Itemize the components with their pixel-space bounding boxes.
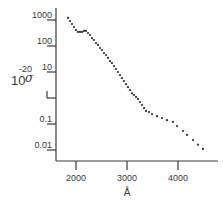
y-tick-label: 100 — [37, 36, 52, 46]
data-point — [117, 71, 119, 73]
data-point — [71, 23, 73, 25]
data-point — [107, 57, 109, 59]
data-point — [135, 96, 137, 98]
y-tick-label: 1000 — [32, 10, 52, 20]
x-tick-label: 2000 — [66, 173, 86, 183]
data-point — [123, 80, 125, 82]
data-point — [202, 148, 204, 150]
data-point — [143, 107, 145, 109]
data-point — [176, 125, 178, 127]
data-point — [151, 113, 153, 115]
chart: 10 -20 σ Å 1000100100.10.01 200030004000 — [0, 0, 223, 211]
data-point — [67, 17, 69, 19]
data-point — [111, 62, 113, 64]
data-point — [83, 30, 85, 32]
data-point — [101, 49, 103, 51]
data-point — [105, 54, 107, 56]
data-point — [109, 60, 111, 62]
x-axis-ticks: 200030004000 — [66, 161, 188, 183]
data-point — [73, 26, 75, 28]
data-point — [133, 94, 135, 96]
data-point — [91, 37, 93, 39]
data-point — [156, 115, 158, 117]
x-tick-label: 3000 — [117, 173, 137, 183]
data-point — [89, 34, 91, 36]
y-axis-label-base: 10 — [11, 73, 25, 88]
data-point — [87, 32, 89, 34]
data-point — [115, 68, 117, 70]
data-point — [192, 139, 194, 141]
data-point — [103, 52, 105, 54]
data-points — [67, 17, 204, 150]
data-point — [127, 86, 129, 88]
data-point — [197, 144, 199, 146]
x-tick-label: 4000 — [168, 173, 188, 183]
data-point — [93, 39, 95, 41]
y-axis-label-symbol: σ — [25, 71, 34, 85]
data-point — [145, 110, 147, 112]
data-point — [161, 117, 163, 119]
data-point — [97, 44, 99, 46]
data-point — [131, 92, 133, 94]
data-point — [119, 74, 121, 76]
data-point — [186, 134, 188, 136]
data-point — [141, 104, 143, 106]
data-point — [77, 31, 79, 33]
data-point — [69, 20, 71, 22]
data-point — [139, 101, 141, 103]
y-tick-label: 10 — [42, 62, 52, 72]
data-point — [172, 121, 174, 123]
data-point — [95, 42, 97, 44]
data-point — [125, 83, 127, 85]
data-point — [148, 111, 150, 113]
data-point — [85, 30, 87, 32]
x-axis-label: Å — [124, 186, 131, 198]
data-point — [75, 29, 77, 31]
y-tick-label: 0.01 — [34, 140, 52, 150]
y-tick-label: 0.1 — [39, 114, 52, 124]
data-point — [113, 65, 115, 67]
data-point — [166, 119, 168, 121]
data-point — [99, 47, 101, 49]
data-point — [79, 31, 81, 33]
data-point — [137, 98, 139, 100]
data-point — [81, 31, 83, 33]
data-point — [121, 77, 123, 79]
data-point — [182, 130, 184, 132]
y-axis-ticks: 1000100100.10.01 — [32, 10, 56, 150]
y-axis-label: 10 -20 σ — [11, 64, 34, 88]
data-point — [129, 89, 131, 91]
